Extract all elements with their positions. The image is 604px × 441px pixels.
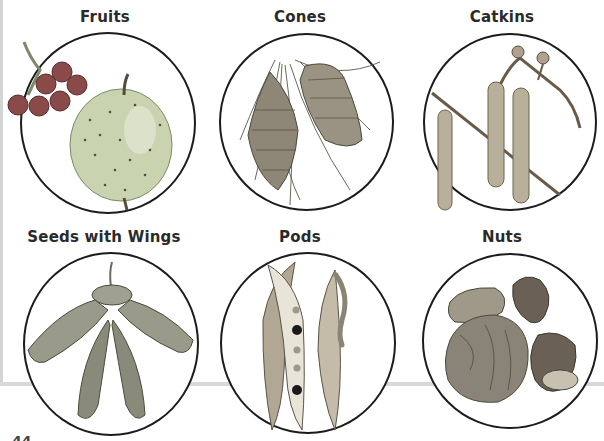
panel-seeds-with-wings: Seeds with Wings	[0, 220, 200, 441]
apple-and-berries-illustration	[0, 0, 200, 220]
panel-pods: Pods	[200, 220, 400, 441]
maple-samaras-illustration	[0, 220, 200, 441]
birch-catkins-illustration	[400, 0, 604, 220]
assorted-nuts-illustration	[400, 220, 604, 441]
panel-cones: Cones	[200, 0, 400, 220]
panel-catkins: Catkins	[400, 0, 604, 220]
bean-pods-illustration	[200, 220, 400, 441]
panel-fruits: Fruits	[0, 0, 200, 220]
panel-nuts: Nuts	[400, 220, 604, 441]
pine-cones-illustration	[200, 0, 400, 220]
page-number: 44	[12, 432, 31, 441]
